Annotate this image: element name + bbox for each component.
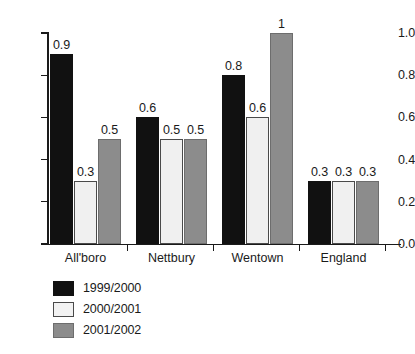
- bar-value-label: 0.3: [68, 166, 103, 178]
- legend-item: 2001/2002: [53, 320, 141, 341]
- legend-swatch: [53, 302, 74, 317]
- y-axis-tick-mark: [41, 117, 48, 118]
- legend-swatch: [53, 281, 74, 296]
- legend-label: 2000/2001: [83, 303, 141, 316]
- bar-value-label: 0.6: [130, 102, 165, 114]
- y-axis-tick-mark: [41, 201, 48, 202]
- bar: [74, 181, 97, 244]
- x-axis-tick-mark: [299, 244, 300, 251]
- bar: [356, 181, 379, 244]
- bar: [270, 33, 293, 244]
- bar-value-label: 0.5: [178, 124, 213, 136]
- legend-item: 1999/2000: [53, 278, 141, 299]
- x-axis-category-label: England: [288, 251, 399, 265]
- x-axis-tick-mark: [213, 244, 214, 251]
- y-axis-tick-mark: [41, 75, 48, 76]
- bar: [98, 139, 121, 245]
- legend-label: 1999/2000: [83, 282, 141, 295]
- bar-value-label: 0.6: [240, 102, 275, 114]
- bar: [246, 117, 269, 244]
- bar-value-label: 0.5: [92, 124, 127, 136]
- bar: [184, 139, 207, 245]
- y-axis-tick-mark: [41, 159, 48, 160]
- x-axis-tick-mark: [385, 244, 386, 251]
- bar-value-label: 1: [264, 18, 299, 30]
- bar: [160, 139, 183, 245]
- bar: [50, 54, 73, 244]
- x-axis-tick-mark: [127, 244, 128, 251]
- bar: [136, 117, 159, 244]
- y-axis-tick-mark: [41, 32, 48, 33]
- bar: [222, 75, 245, 244]
- bar: [308, 181, 331, 244]
- legend-label: 2001/2002: [83, 324, 141, 337]
- legend-item: 2000/2001: [53, 299, 141, 320]
- bar-value-label: 0.9: [44, 39, 79, 51]
- bar-value-label: 0.3: [350, 166, 385, 178]
- chart-legend: 1999/20002000/20012001/2002: [53, 278, 141, 341]
- y-axis-tick-mark: [41, 243, 48, 244]
- legend-swatch: [53, 323, 74, 338]
- bar-chart: 0.00.20.40.60.81.0 All'boroNettburyWento…: [0, 0, 415, 354]
- bar: [332, 181, 355, 244]
- bar-value-label: 0.8: [216, 60, 251, 72]
